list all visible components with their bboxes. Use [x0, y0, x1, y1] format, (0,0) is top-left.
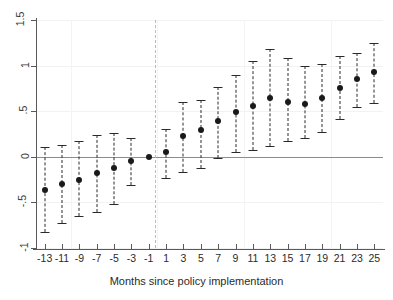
- confidence-interval-cap: [231, 75, 240, 76]
- x-tick-label: 7: [215, 252, 221, 264]
- x-tick-mark: [79, 244, 80, 249]
- confidence-interval-cap: [283, 58, 292, 59]
- zero-reference-line: [36, 157, 383, 158]
- data-point-marker: [111, 165, 117, 171]
- y-tick-mark: [31, 157, 36, 158]
- confidence-interval-cap: [370, 43, 379, 44]
- data-point-marker: [267, 95, 273, 101]
- confidence-interval-cap: [266, 49, 275, 50]
- data-point-marker: [42, 187, 48, 193]
- confidence-interval-cap: [40, 232, 49, 233]
- confidence-interval-cap: [162, 178, 171, 179]
- data-point-marker: [163, 149, 169, 155]
- confidence-interval-cap: [196, 100, 205, 101]
- data-point-marker: [337, 85, 343, 91]
- confidence-interval-cap: [352, 107, 361, 108]
- gridline-vertical: [71, 20, 72, 248]
- x-tick-label: 17: [299, 252, 311, 264]
- x-tick-label: -1: [144, 252, 153, 264]
- confidence-interval-cap: [58, 145, 67, 146]
- confidence-interval-cap: [231, 152, 240, 153]
- confidence-interval-cap: [318, 64, 327, 65]
- data-point-marker: [319, 95, 325, 101]
- confidence-interval-cap: [352, 53, 361, 54]
- x-tick-label: 13: [264, 252, 276, 264]
- confidence-interval-cap: [370, 103, 379, 104]
- confidence-interval-bar: [200, 100, 201, 167]
- x-tick-mark: [45, 244, 46, 249]
- x-tick-mark: [97, 244, 98, 249]
- x-tick-mark: [374, 244, 375, 249]
- data-point-marker: [146, 154, 152, 160]
- x-tick-mark: [357, 244, 358, 249]
- data-point-marker: [180, 133, 186, 139]
- y-tick-label: -1: [0, 241, 28, 253]
- x-tick-mark: [114, 244, 115, 249]
- data-point-marker: [59, 181, 65, 187]
- confidence-interval-cap: [335, 119, 344, 120]
- data-point-marker: [128, 158, 134, 164]
- confidence-interval-cap: [196, 168, 205, 169]
- confidence-interval-cap: [266, 146, 275, 147]
- x-tick-mark: [305, 244, 306, 249]
- x-tick-mark: [270, 244, 271, 249]
- gridline-vertical: [157, 20, 158, 248]
- confidence-interval-cap: [92, 212, 101, 213]
- data-point-marker: [76, 177, 82, 183]
- x-tick-label: 19: [316, 252, 328, 264]
- x-tick-label: -5: [109, 252, 118, 264]
- x-tick-mark: [62, 244, 63, 249]
- x-axis-title: Months since policy implementation: [0, 275, 393, 287]
- confidence-interval-cap: [214, 158, 223, 159]
- y-tick-mark: [31, 111, 36, 112]
- confidence-interval-cap: [110, 133, 119, 134]
- x-tick-mark: [166, 244, 167, 249]
- x-tick-label: 5: [198, 252, 204, 264]
- x-tick-label: -9: [75, 252, 84, 264]
- confidence-interval-cap: [300, 138, 309, 139]
- confidence-interval-cap: [92, 135, 101, 136]
- x-tick-label: 15: [282, 252, 294, 264]
- y-tick-label: 0: [0, 150, 28, 162]
- data-point-marker: [250, 103, 256, 109]
- confidence-interval-cap: [335, 56, 344, 57]
- data-point-marker: [354, 76, 360, 82]
- data-point-marker: [198, 127, 204, 133]
- x-tick-mark: [340, 244, 341, 249]
- x-tick-label: 21: [334, 252, 346, 264]
- x-tick-mark: [253, 244, 254, 249]
- confidence-interval-cap: [300, 66, 309, 67]
- confidence-interval-cap: [58, 223, 67, 224]
- x-tick-mark: [149, 244, 150, 249]
- y-tick-mark: [31, 66, 36, 67]
- x-tick-mark: [201, 244, 202, 249]
- x-tick-label: 25: [368, 252, 380, 264]
- data-point-marker: [285, 99, 291, 105]
- confidence-interval-cap: [179, 102, 188, 103]
- y-tick-mark: [31, 202, 36, 203]
- x-tick-label: 9: [233, 252, 239, 264]
- y-tick-label: 1.5: [0, 13, 28, 25]
- x-tick-label: -3: [127, 252, 136, 264]
- y-tick-mark: [31, 20, 36, 21]
- y-tick-mark: [31, 248, 36, 249]
- confidence-interval-cap: [40, 147, 49, 148]
- x-tick-mark: [218, 244, 219, 249]
- x-tick-mark: [322, 244, 323, 249]
- x-axis-line: [33, 249, 385, 250]
- confidence-interval-cap: [283, 141, 292, 142]
- plot-area: [36, 20, 383, 248]
- x-tick-mark: [236, 244, 237, 249]
- confidence-interval-cap: [75, 141, 84, 142]
- data-point-marker: [215, 118, 221, 124]
- x-tick-label: 11: [247, 252, 258, 264]
- confidence-interval-cap: [248, 61, 257, 62]
- gridline-vertical: [244, 20, 245, 248]
- data-point-marker: [302, 101, 308, 107]
- x-tick-label: -7: [92, 252, 101, 264]
- event-study-chart: -1-.50.511.5 -13-11-9-7-5-3-113579111315…: [0, 0, 393, 300]
- confidence-interval-cap: [162, 129, 171, 130]
- x-tick-mark: [131, 244, 132, 249]
- confidence-interval-cap: [248, 150, 257, 151]
- x-tick-mark: [288, 244, 289, 249]
